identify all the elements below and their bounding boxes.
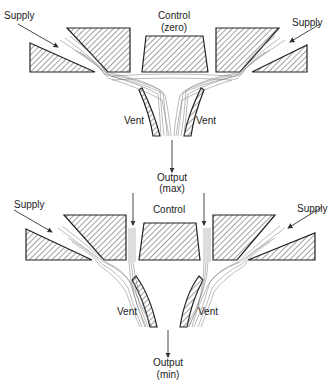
- control-block: [142, 36, 208, 72]
- control-label: Control: [158, 10, 190, 21]
- supply-right-label: Supply: [297, 203, 328, 214]
- right-lower-wedge: [248, 233, 315, 260]
- vent-right-label: Vent: [196, 115, 216, 126]
- output-state-label: (min): [157, 369, 180, 380]
- supply-right-label: Supply: [292, 17, 323, 28]
- diagram-top-max-output: Supply Supply Control (zero) Vent Vent O…: [4, 10, 323, 194]
- output-label: Output: [153, 357, 183, 368]
- control-state-label: (zero): [161, 22, 187, 33]
- control-label: Control: [153, 204, 185, 215]
- right-vent-wall: [184, 88, 204, 136]
- diagram-bottom-min-output: Supply Supply Control Vent Vent Output (…: [14, 193, 328, 380]
- output-state-label: (max): [159, 183, 185, 194]
- supply-left-arrow: [18, 24, 58, 47]
- supply-left-arrow: [14, 210, 52, 232]
- supply-left-label: Supply: [14, 199, 45, 210]
- vent-left-label: Vent: [124, 115, 144, 126]
- supply-left-label: Supply: [4, 10, 35, 21]
- left-vent-wall: [139, 88, 160, 136]
- control-block: [139, 223, 200, 260]
- vent-right-label: Vent: [198, 306, 218, 317]
- output-label: Output: [157, 172, 187, 183]
- fluidic-amplifier-diagram: Supply Supply Control (zero) Vent Vent O…: [0, 0, 336, 388]
- vent-left-label: Vent: [117, 306, 137, 317]
